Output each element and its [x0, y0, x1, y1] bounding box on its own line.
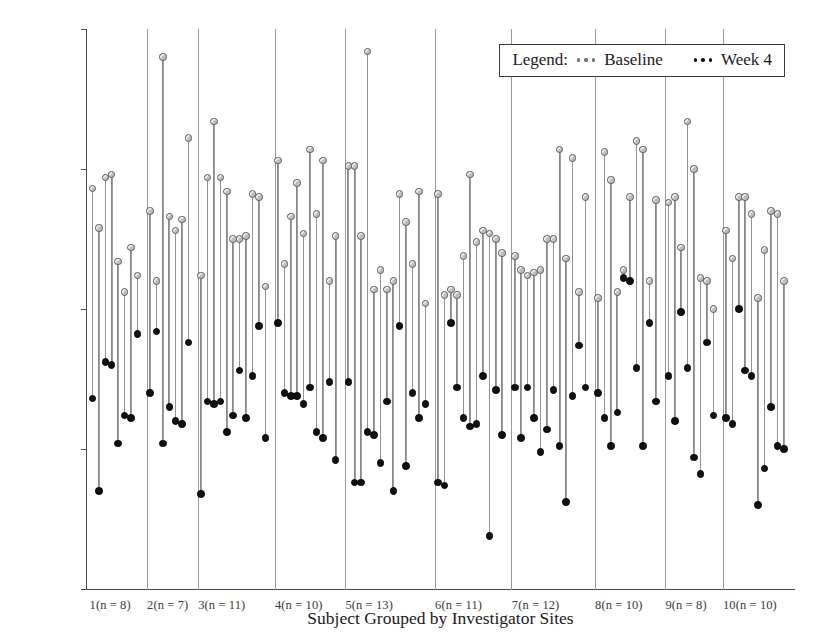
connector-line — [655, 200, 657, 402]
week4-point — [300, 400, 308, 408]
baseline-point — [197, 272, 205, 280]
connector-line — [725, 231, 727, 419]
week4-point — [319, 434, 327, 442]
week4-point — [729, 420, 737, 428]
week4-point — [306, 384, 314, 392]
connector-line — [130, 247, 132, 418]
connector-line — [649, 281, 651, 323]
week4-point — [274, 319, 282, 327]
baseline-point — [665, 199, 673, 207]
x-tick-label-site-2: 2(n = 7) — [147, 598, 188, 613]
baseline-point — [601, 148, 609, 156]
connector-line — [213, 121, 215, 404]
week4-point — [159, 440, 167, 448]
baseline-point — [677, 244, 685, 252]
connector-line — [700, 278, 702, 474]
connector-line — [578, 292, 580, 345]
baseline-point — [473, 238, 481, 246]
week4-point — [543, 426, 551, 434]
week4-point — [780, 445, 788, 453]
connector-line — [520, 270, 522, 438]
week4-point — [229, 412, 237, 420]
connector-line — [463, 256, 465, 418]
week4-point — [524, 384, 532, 392]
connector-line — [777, 214, 779, 446]
week4-point — [223, 428, 231, 436]
connector-line — [693, 169, 695, 457]
connector-line — [347, 166, 349, 382]
week4-point — [345, 378, 353, 386]
baseline-point — [511, 252, 519, 260]
week4-point — [710, 412, 718, 420]
connector-line — [124, 292, 126, 415]
week4-point — [185, 339, 193, 347]
baseline-point — [626, 193, 634, 201]
baseline-point — [422, 300, 430, 308]
connector-line — [706, 281, 708, 343]
week4-point — [127, 414, 135, 422]
baseline-point — [153, 277, 161, 285]
week4-point — [166, 403, 174, 411]
connector-line — [642, 149, 644, 446]
baseline-point — [748, 210, 756, 218]
connector-line — [405, 222, 407, 466]
baseline-point — [255, 193, 263, 201]
week4-point — [236, 367, 244, 375]
week4-point — [562, 498, 570, 506]
connector-line — [437, 194, 439, 482]
connector-line — [245, 236, 247, 418]
baseline-point — [95, 224, 103, 232]
connector-line — [181, 219, 183, 423]
connector-line — [527, 275, 529, 387]
group-separator — [198, 29, 199, 590]
group-separator — [595, 29, 596, 590]
week4-point — [293, 392, 301, 400]
baseline-point — [127, 244, 135, 252]
baseline-point — [364, 48, 372, 56]
week4-point — [735, 305, 743, 313]
baseline-point — [453, 291, 461, 299]
baseline-point — [396, 190, 404, 198]
connector-line — [616, 292, 618, 412]
baseline-point — [377, 266, 385, 274]
baseline-point — [761, 246, 769, 254]
week4-point — [498, 431, 506, 439]
baseline-point — [550, 235, 558, 243]
x-tick-label-site-3: 3(n = 11) — [198, 598, 245, 613]
plot-area: 1(n = 8)2(n = 7)3(n = 11)4(n = 10)5(n = … — [87, 29, 795, 589]
group-separator — [723, 29, 724, 590]
legend-baseline-marker-icon — [577, 58, 595, 61]
baseline-point — [146, 207, 154, 215]
baseline-point — [729, 255, 737, 263]
connector-line — [354, 166, 356, 482]
group-separator — [665, 29, 666, 590]
chart-page: Mean Diurnal IOP at Baseline and Week 4 … — [0, 0, 818, 637]
baseline-point — [710, 305, 718, 313]
x-tick-label-site-6: 6(n = 11) — [435, 598, 482, 613]
baseline-point — [262, 283, 270, 291]
chart-legend: Legend: Baseline Week 4 — [499, 44, 785, 77]
connector-line — [232, 239, 234, 415]
week4-point — [754, 501, 762, 509]
baseline-point — [671, 193, 679, 201]
connector-line — [316, 214, 318, 432]
baseline-point — [332, 232, 340, 240]
week4-point — [511, 384, 519, 392]
baseline-point — [537, 266, 545, 274]
connector-line — [265, 287, 267, 438]
group-separator — [345, 29, 346, 590]
baseline-point — [114, 258, 122, 266]
connector-line — [168, 217, 170, 407]
baseline-point — [293, 179, 301, 187]
baseline-point — [281, 260, 289, 268]
baseline-point — [492, 235, 500, 243]
week4-point — [134, 330, 142, 338]
group-separator — [147, 29, 148, 590]
week4-point — [108, 361, 116, 369]
week4-point — [217, 398, 225, 406]
connector-line — [226, 191, 228, 432]
baseline-point — [402, 218, 410, 226]
week4-point — [556, 442, 564, 450]
group-separator — [275, 29, 276, 590]
connector-line — [559, 149, 561, 446]
